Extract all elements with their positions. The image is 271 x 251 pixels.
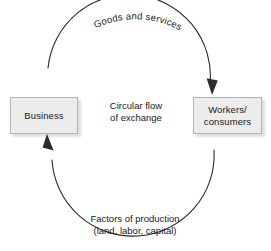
arrowhead-to-workers [207,78,218,95]
circular-flow-diagram: Goods and services Business Workers/ con… [0,0,271,251]
center-caption: Circular flow of exchange [86,100,186,123]
flow-label-goods-and-services: Goods and services [92,10,184,32]
node-workers[interactable]: Workers/ consumers [193,97,262,134]
node-workers-label: Workers/ consumers [204,104,251,127]
node-business[interactable]: Business [10,97,78,134]
arrowhead-to-business [43,134,54,150]
flow-label-factors-of-production: Factors of production (land, labor, capi… [35,213,235,236]
node-business-label: Business [24,110,63,122]
